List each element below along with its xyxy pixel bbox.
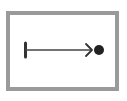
- sketch-canvas: [0, 0, 127, 101]
- end-dot: [94, 45, 104, 55]
